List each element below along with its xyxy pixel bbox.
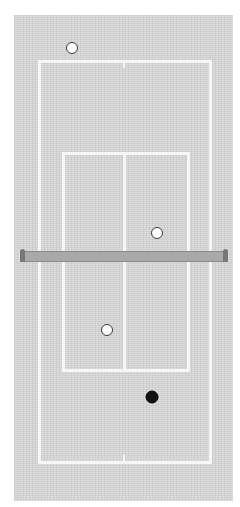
top-service-line bbox=[62, 152, 190, 155]
bottom-service-line bbox=[62, 369, 190, 372]
net-post-right bbox=[223, 249, 228, 262]
net bbox=[22, 251, 227, 262]
top-baseline bbox=[38, 60, 212, 63]
right-sideline bbox=[209, 60, 212, 464]
center-service-line bbox=[123, 152, 126, 372]
bottom-center-mark bbox=[123, 455, 125, 463]
ball-upper-right[interactable] bbox=[151, 227, 163, 239]
net-post-left bbox=[20, 249, 25, 262]
ball-black[interactable] bbox=[146, 391, 159, 404]
bottom-baseline bbox=[38, 461, 212, 464]
top-center-mark bbox=[123, 60, 125, 68]
ball-top[interactable] bbox=[66, 42, 78, 54]
right-service-sideline bbox=[187, 152, 190, 372]
ball-lower-left[interactable] bbox=[101, 324, 113, 336]
left-sideline bbox=[38, 60, 41, 464]
left-service-sideline bbox=[62, 152, 65, 372]
